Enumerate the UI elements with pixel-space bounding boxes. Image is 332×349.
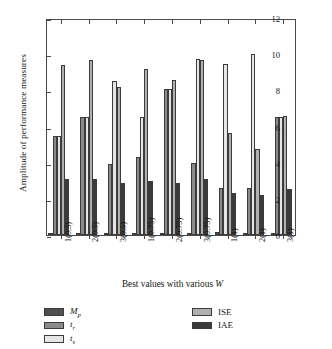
y-axis-tick xyxy=(47,165,51,166)
x-axis-tick xyxy=(228,235,229,239)
x-axis-tick xyxy=(172,235,173,239)
legend-label-mp: Mp xyxy=(70,306,81,318)
x-axis-tick-top xyxy=(228,20,229,24)
x-axis-tick-label: 3(0.75) xyxy=(203,218,212,242)
x-axis-tick xyxy=(89,235,90,239)
x-axis-tick-label: 3(0.5) xyxy=(119,222,128,242)
y-axis-label: Amplitude of performance measures xyxy=(18,28,28,218)
y-axis-tick-label: 4 xyxy=(250,159,280,169)
bar-group xyxy=(104,20,125,235)
legend-item-ts: ts xyxy=(44,332,81,346)
legend-swatch-ts xyxy=(44,335,64,343)
x-axis-tick xyxy=(61,235,62,239)
x-axis-label-symbol: W xyxy=(215,279,223,289)
x-axis-tick-label: 2(0.5) xyxy=(91,222,100,242)
x-axis-tick xyxy=(200,235,201,239)
y-axis-tick-label: 10 xyxy=(250,50,280,60)
legend-label-iae: IAE xyxy=(218,320,233,330)
legend-label-subscript: s xyxy=(73,338,76,345)
legend-item-tr: tr xyxy=(44,319,81,333)
x-axis-tick-top xyxy=(89,20,90,24)
legend-label-subscript: p xyxy=(78,311,81,318)
bar-group xyxy=(48,20,69,235)
legend-item-ise: ISE xyxy=(192,305,233,319)
legend-item-mp: Mp xyxy=(44,305,81,319)
legend-swatch-mp xyxy=(44,308,64,316)
x-axis-label-prefix: Best values with various xyxy=(122,279,215,289)
x-axis-tick-label: 1(0.75) xyxy=(147,218,156,242)
x-axis-tick-label: 3(1) xyxy=(286,228,295,242)
x-axis-label: Best values with various W xyxy=(55,279,290,289)
bar-group xyxy=(215,20,236,235)
x-axis-tick-top xyxy=(116,20,117,24)
y-axis-tick xyxy=(47,20,51,21)
chart-legend: Mptrts ISEIAE xyxy=(44,305,294,347)
y-axis-tick xyxy=(47,92,51,93)
legend-label-ise: ISE xyxy=(218,307,232,317)
x-axis-tick-label: 1(1) xyxy=(230,228,239,242)
y-axis-tick-label: 12 xyxy=(250,14,280,24)
x-axis-tick-top xyxy=(144,20,145,24)
legend-column-left: Mptrts xyxy=(44,305,81,346)
x-axis-tick-label: 2(1) xyxy=(258,228,267,242)
legend-item-iae: IAE xyxy=(192,319,233,333)
legend-column-right: ISEIAE xyxy=(192,305,233,332)
legend-swatch-ise xyxy=(192,308,212,316)
bar-group xyxy=(160,20,181,235)
bar-group xyxy=(132,20,153,235)
legend-swatch-tr xyxy=(44,322,64,330)
y-axis-tick xyxy=(47,56,51,57)
y-axis-tick-label: 2 xyxy=(250,195,280,205)
bar-group xyxy=(76,20,97,235)
x-axis-tick xyxy=(283,235,284,239)
y-axis-tick xyxy=(47,237,51,238)
y-axis-tick-label: 8 xyxy=(250,86,280,96)
x-axis-tick-label: 2(0.75) xyxy=(175,218,184,242)
legend-label-subscript: r xyxy=(73,324,76,331)
x-axis-tick-top xyxy=(200,20,201,24)
y-axis-tick xyxy=(47,201,51,202)
bar-chart-figure: Amplitude of performance measures 024681… xyxy=(0,0,332,349)
y-axis-tick-label: 6 xyxy=(250,123,280,133)
x-axis-tick xyxy=(116,235,117,239)
y-axis-tick xyxy=(47,129,51,130)
legend-label-tr: tr xyxy=(70,319,75,331)
x-axis-tick xyxy=(144,235,145,239)
bar-group xyxy=(187,20,208,235)
x-axis-tick-top xyxy=(61,20,62,24)
x-axis-tick-top xyxy=(172,20,173,24)
x-axis-tick-top xyxy=(283,20,284,24)
legend-label-ts: ts xyxy=(70,333,75,345)
legend-swatch-iae xyxy=(192,322,212,330)
x-axis-tick-label: 1(0.5) xyxy=(64,222,73,242)
